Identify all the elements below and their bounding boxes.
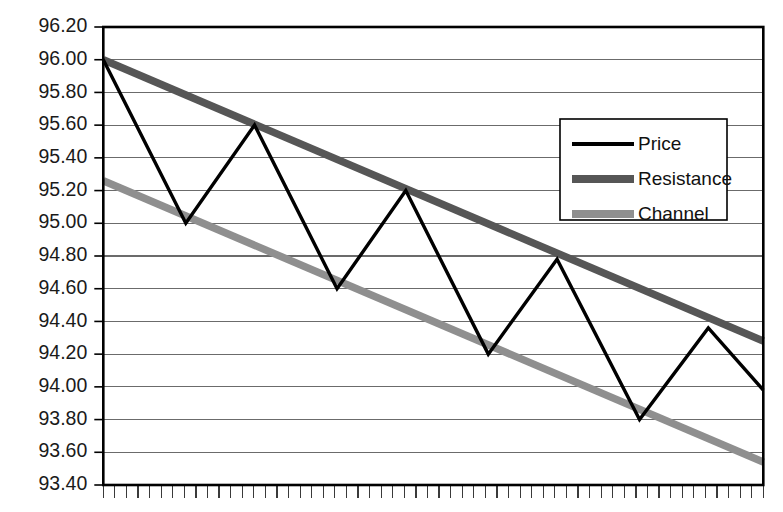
- legend-label-channel: Channel: [638, 203, 709, 224]
- y-axis-tick-labels: 96.2096.0095.8095.6095.4095.2095.0094.80…: [38, 14, 87, 494]
- line-chart: 96.2096.0095.8095.6095.4095.2095.0094.80…: [0, 0, 783, 512]
- y-axis-tick-label: 96.20: [38, 14, 87, 36]
- y-axis-tick-label: 93.40: [38, 472, 87, 494]
- y-axis-tick-label: 95.20: [38, 178, 87, 200]
- y-axis-tick-label: 95.40: [38, 145, 87, 167]
- chart-legend: PriceResistanceChannel: [560, 119, 732, 224]
- y-axis-tick-label: 95.60: [38, 112, 87, 134]
- y-axis-tick-label: 93.80: [38, 407, 87, 429]
- y-axis-tick-label: 94.40: [38, 309, 87, 331]
- legend-label-price: Price: [638, 133, 681, 154]
- y-axis-tick-label: 95.00: [38, 210, 87, 232]
- y-axis-tick-label: 94.60: [38, 276, 87, 298]
- legend-label-resistance: Resistance: [638, 168, 732, 189]
- y-axis-tick-label: 96.00: [38, 47, 87, 69]
- y-axis-tick-label: 93.60: [38, 439, 87, 461]
- y-axis-tick-label: 94.20: [38, 341, 87, 363]
- chart-container: 96.2096.0095.8095.6095.4095.2095.0094.80…: [0, 0, 783, 512]
- y-axis-tick-label: 95.80: [38, 80, 87, 102]
- y-axis-tick-label: 94.80: [38, 243, 87, 265]
- y-axis-tick-label: 94.00: [38, 374, 87, 396]
